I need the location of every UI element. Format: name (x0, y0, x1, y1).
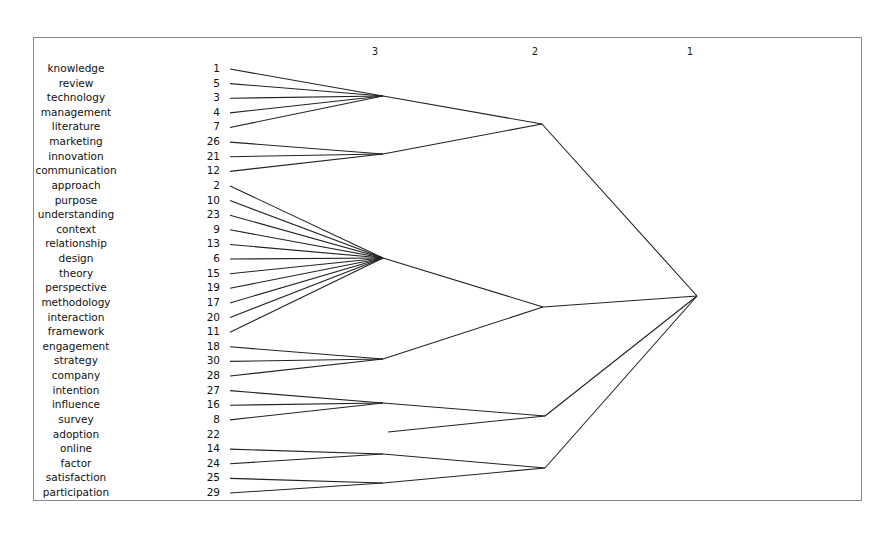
leaf-id: 13 (207, 237, 220, 249)
dendrogram-edge (230, 84, 383, 96)
leaf-id: 30 (207, 354, 220, 366)
dendrogram-edge (230, 449, 383, 454)
leaf-id: 24 (207, 457, 221, 469)
leaf-term: participation (43, 486, 109, 498)
dendrogram-edge (388, 416, 545, 432)
dendrogram-edge (230, 230, 383, 258)
dendrogram-edge (230, 403, 383, 405)
leaf-term: online (60, 442, 92, 454)
dendrogram: 321 knowledge1review5technology3manageme… (0, 0, 893, 535)
dendrogram-edge (230, 96, 383, 113)
dendrogram-edge (383, 454, 545, 468)
leaf-id: 19 (207, 281, 220, 293)
leaf-id: 7 (213, 120, 220, 132)
leaf-term: purpose (55, 194, 98, 206)
level-label: 2 (532, 46, 538, 57)
leaf-term: approach (51, 179, 100, 191)
dendrogram-edge (230, 391, 383, 403)
leaf-id: 17 (207, 296, 220, 308)
dendrogram-edge (542, 124, 697, 296)
dendrogram-edge (230, 258, 383, 288)
dendrogram-edge (230, 258, 383, 318)
leaf-term: company (52, 369, 100, 381)
leaf-id: 21 (207, 150, 220, 162)
leaf-id: 4 (213, 106, 220, 118)
leaf-id: 8 (213, 413, 220, 425)
dendrogram-edge (545, 296, 697, 416)
leaf-id: 18 (207, 340, 220, 352)
leaf-id: 23 (207, 208, 220, 220)
dendrogram-edge (230, 454, 383, 464)
leaf-id: 2 (213, 179, 220, 191)
dendrogram-edge (383, 307, 543, 359)
leaf-term: innovation (48, 150, 103, 162)
dendrogram-edge (230, 258, 383, 332)
dendrogram-edge (383, 468, 545, 483)
dendrogram-edge (383, 96, 542, 124)
level-label: 1 (687, 46, 693, 57)
leaf-term: technology (47, 91, 105, 103)
dendrogram-edge (543, 296, 697, 307)
dendrogram-edge (230, 258, 383, 274)
dendrogram-edge (230, 478, 383, 483)
leaf-term: marketing (49, 135, 103, 147)
leaf-term: factor (61, 457, 92, 469)
leaf-id: 16 (207, 398, 221, 410)
dendrogram-edge (230, 347, 383, 359)
leaf-term: survey (58, 413, 93, 425)
leaf-term: relationship (45, 237, 107, 249)
dendrogram-edge (230, 258, 383, 303)
leaf-id: 29 (207, 486, 220, 498)
leaf-id: 1 (213, 62, 220, 74)
leaf-term: interaction (48, 311, 105, 323)
dendrogram-edge (230, 69, 383, 96)
leaf-term: review (59, 77, 94, 89)
leaf-labels: knowledge1review5technology3management4l… (35, 62, 220, 498)
dendrogram-edge (230, 483, 383, 493)
leaf-id: 15 (207, 267, 220, 279)
leaf-term: design (59, 252, 94, 264)
leaf-id: 28 (207, 369, 220, 381)
leaf-id: 9 (213, 223, 220, 235)
leaf-term: influence (52, 398, 100, 410)
leaf-term: engagement (43, 340, 110, 352)
dendrogram-edge (545, 296, 697, 468)
leaf-term: theory (59, 267, 93, 279)
leaf-term: knowledge (48, 62, 105, 74)
leaf-id: 3 (213, 91, 220, 103)
leaf-term: framework (48, 325, 105, 337)
level-label: 3 (372, 46, 378, 57)
dendrogram-edge (230, 201, 383, 258)
leaf-id: 12 (207, 164, 220, 176)
leaf-term: intention (53, 384, 100, 396)
leaf-id: 27 (207, 384, 220, 396)
dendrogram-edges (230, 69, 697, 493)
dendrogram-edge (230, 403, 383, 420)
leaf-id: 20 (207, 311, 220, 323)
leaf-id: 22 (207, 428, 220, 440)
leaf-id: 5 (213, 77, 220, 89)
leaf-term: communication (35, 164, 116, 176)
leaf-term: perspective (45, 281, 107, 293)
leaf-id: 11 (207, 325, 220, 337)
dendrogram-edge (383, 403, 545, 416)
leaf-term: understanding (38, 208, 114, 220)
leaf-id: 14 (207, 442, 221, 454)
leaf-term: methodology (41, 296, 110, 308)
dendrogram-edge (230, 142, 383, 154)
dendrogram-edge (230, 258, 383, 259)
dendrogram-edge (383, 258, 543, 307)
dendrogram-edge (383, 124, 542, 154)
dendrogram-edge (230, 96, 383, 98)
leaf-id: 10 (207, 194, 220, 206)
leaf-id: 26 (207, 135, 221, 147)
leaf-term: satisfaction (46, 471, 106, 483)
leaf-term: adoption (53, 428, 99, 440)
leaf-id: 6 (213, 252, 220, 264)
leaf-term: management (41, 106, 111, 118)
level-axis-labels: 321 (372, 46, 693, 57)
leaf-term: context (56, 223, 96, 235)
leaf-term: literature (52, 120, 100, 132)
dendrogram-edge (230, 96, 383, 127)
leaf-term: strategy (54, 354, 98, 366)
